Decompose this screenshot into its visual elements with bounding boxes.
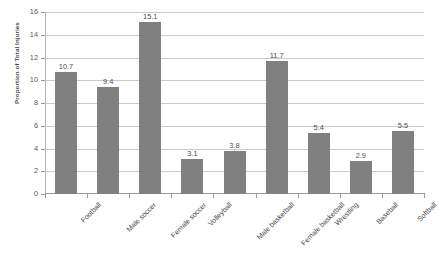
bar[interactable] — [308, 133, 330, 194]
bar[interactable] — [392, 131, 414, 194]
bar-value-label: 3.1 — [176, 149, 208, 158]
x-tick-mark — [340, 194, 341, 198]
bar[interactable] — [224, 151, 246, 194]
bar-value-label: 5.4 — [303, 123, 335, 132]
bar[interactable] — [97, 87, 119, 194]
y-tick-mark — [41, 171, 45, 172]
y-tick-label: 4 — [12, 145, 38, 153]
gridline — [45, 35, 424, 36]
x-tick-mark — [45, 194, 46, 198]
gridline — [45, 12, 424, 13]
y-tick-label: 6 — [12, 122, 38, 130]
x-category-label: Volleyball — [207, 201, 235, 229]
x-tick-mark — [87, 194, 88, 198]
y-tick-mark — [41, 58, 45, 59]
x-category-label: Football — [79, 201, 103, 225]
y-tick-mark — [41, 35, 45, 36]
bar[interactable] — [350, 161, 372, 194]
x-category-label: Male basketball — [255, 201, 296, 242]
gridline — [45, 58, 424, 59]
bar-value-label: 15.1 — [134, 12, 166, 21]
y-tick-mark — [41, 126, 45, 127]
plot-area: 10.79.415.13.13.811.75.42.95.5 — [45, 12, 424, 194]
bar[interactable] — [55, 72, 77, 194]
bar-value-label: 9.4 — [92, 77, 124, 86]
y-tick-label: 2 — [12, 167, 38, 175]
bar[interactable] — [181, 159, 203, 194]
bar-value-label: 10.7 — [50, 62, 82, 71]
y-tick-label: 10 — [12, 76, 38, 84]
x-tick-mark — [382, 194, 383, 198]
y-axis-title: Proportion of Total Injuries — [10, 0, 24, 128]
x-category-label: Female soccer — [170, 201, 209, 240]
y-tick-mark — [41, 12, 45, 13]
bar-value-label: 5.5 — [387, 121, 419, 130]
y-tick-label: 16 — [12, 8, 38, 16]
x-category-label: Male soccer — [125, 201, 158, 234]
x-tick-mark — [298, 194, 299, 198]
bar-value-label: 2.9 — [345, 151, 377, 160]
y-tick-mark — [41, 103, 45, 104]
x-tick-mark — [171, 194, 172, 198]
y-tick-label: 14 — [12, 31, 38, 39]
y-tick-mark — [41, 149, 45, 150]
bar[interactable] — [139, 22, 161, 194]
bar[interactable] — [266, 61, 288, 194]
y-tick-label: 0 — [12, 190, 38, 198]
bar-value-label: 11.7 — [261, 51, 293, 60]
bar-value-label: 3.8 — [219, 141, 251, 150]
x-category-label: Softball — [416, 201, 439, 224]
y-tick-label: 8 — [12, 99, 38, 107]
y-tick-mark — [41, 80, 45, 81]
x-tick-mark — [129, 194, 130, 198]
x-tick-mark — [213, 194, 214, 198]
y-tick-label: 12 — [12, 54, 38, 62]
x-tick-mark — [424, 194, 425, 198]
x-category-label: Baseball — [375, 201, 401, 227]
x-tick-mark — [256, 194, 257, 198]
